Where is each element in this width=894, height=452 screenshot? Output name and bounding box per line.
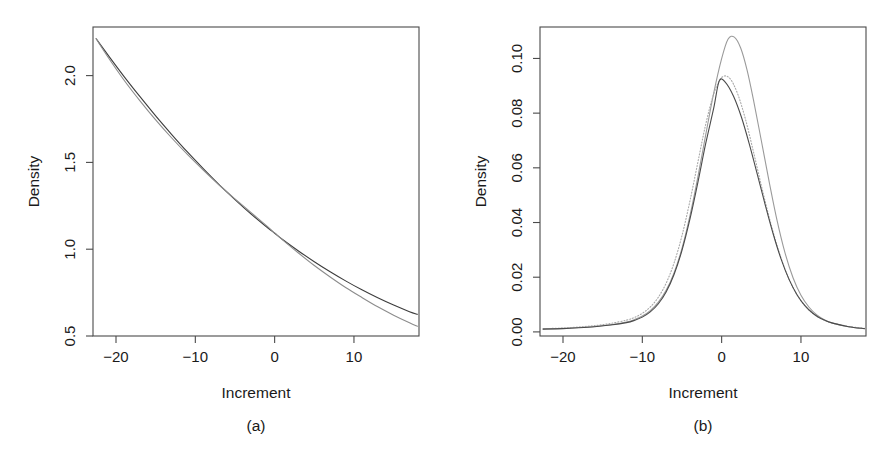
x-axis: −20−10010 [550, 336, 809, 365]
y-tick-label: 1.0 [61, 239, 78, 260]
x-tick-label: 10 [793, 348, 810, 365]
plot-frame-rect [540, 27, 866, 336]
figure-container: −20−100100.51.01.52.0DensityIncrement(a)… [0, 0, 894, 452]
curve-curve-1 [96, 39, 417, 315]
y-tick-label: 2.0 [61, 65, 78, 86]
x-tick-label: 10 [346, 348, 363, 365]
x-tick-label: −10 [630, 348, 655, 365]
x-tick-label: −10 [183, 348, 208, 365]
curve-dotted-curve [543, 76, 864, 329]
curve-low-peak-solid [543, 79, 864, 329]
panel-b: −20−100100.000.020.040.060.080.10Density… [447, 0, 894, 452]
curves-group [543, 36, 864, 329]
y-axis-title: Density [25, 155, 42, 207]
y-tick-label: 0.02 [508, 263, 525, 292]
y-axis-title: Density [472, 155, 489, 207]
x-tick-label: 0 [270, 348, 278, 365]
x-axis-title: Increment [222, 384, 292, 401]
curve-tall-peak-solid [543, 36, 864, 329]
plot-frame-rect [93, 27, 419, 336]
curve-curve-2 [96, 39, 417, 326]
y-tick-label: 0.10 [508, 44, 525, 73]
y-tick-label: 0.06 [508, 153, 525, 182]
plot-b-svg: −20−100100.000.020.040.060.080.10Density… [447, 0, 894, 452]
y-tick-label: 0.08 [508, 99, 525, 128]
x-tick-label: 0 [717, 348, 725, 365]
panel-a: −20−100100.51.01.52.0DensityIncrement(a) [0, 0, 447, 452]
plot-frame [540, 27, 866, 336]
panel-caption: (b) [694, 417, 713, 434]
x-axis-title: Increment [669, 384, 739, 401]
y-tick-label: 0.00 [508, 317, 525, 346]
y-axis: 0.51.01.52.0 [61, 65, 93, 346]
x-axis: −20−10010 [103, 336, 362, 365]
y-axis: 0.000.020.040.060.080.10 [508, 44, 540, 347]
y-tick-label: 0.04 [508, 208, 525, 237]
plot-a-svg: −20−100100.51.01.52.0DensityIncrement(a) [0, 0, 447, 452]
plot-frame [93, 27, 419, 336]
x-tick-label: −20 [103, 348, 128, 365]
x-tick-label: −20 [550, 348, 575, 365]
panel-caption: (a) [247, 417, 266, 434]
curves-group [96, 39, 417, 326]
y-tick-label: 1.5 [61, 152, 78, 173]
y-tick-label: 0.5 [61, 326, 78, 347]
